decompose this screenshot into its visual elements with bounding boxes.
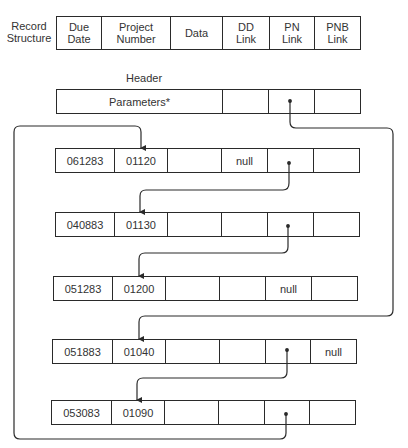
rec4-pn-pointer <box>137 350 287 400</box>
rec5-pn-pointer <box>14 126 286 439</box>
pointer-arrows <box>0 0 408 448</box>
header-pn-pointer <box>139 101 393 339</box>
rec2-pn-pointer <box>139 226 288 276</box>
rec1-pn-pointer <box>140 163 289 212</box>
